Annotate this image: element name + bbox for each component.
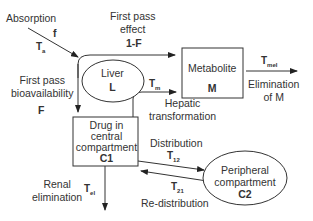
renal-elimination-label: Renalelimination: [32, 178, 82, 204]
first-pass-effect-label: First passeffect: [110, 10, 156, 36]
ta-label: Ta: [36, 41, 45, 57]
redistribution-arrow: [141, 171, 207, 181]
f-label: f: [53, 27, 57, 39]
central-compartment-label: Drug incentralcompartmentC1: [74, 120, 139, 164]
distribution-label: Distribution: [150, 137, 203, 149]
tel-label: Tel: [84, 183, 95, 199]
peripheral-compartment-label: PeripheralcompartmentC2: [209, 164, 281, 200]
first-pass-bioavailability-label: First passbioavailability: [11, 74, 73, 100]
t12-label: T12: [167, 150, 180, 166]
big-f-label: F: [38, 104, 44, 116]
tm-label: Tm: [149, 78, 160, 94]
t21-label: T21: [171, 181, 184, 197]
absorption-label: Absorption: [6, 12, 56, 24]
metabolite-label: MetaboliteM: [188, 58, 236, 98]
liver-label: LiverL: [101, 66, 124, 94]
hepatic-transformation-label: Hepatictransformation: [149, 97, 216, 123]
tmel-label: Tmel: [261, 55, 277, 71]
elimination-m-label: Eliminationof M: [248, 78, 299, 104]
one-minus-f-label: 1-F: [126, 37, 142, 49]
redistribution-label: Re-distribution: [141, 197, 209, 209]
